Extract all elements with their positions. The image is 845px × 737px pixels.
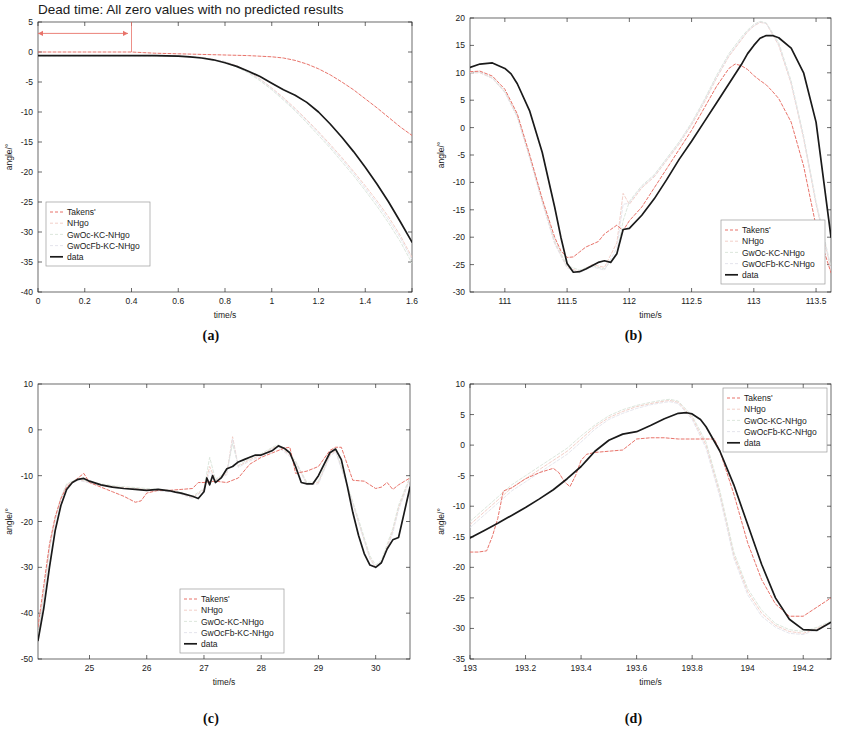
legend-label: GwOcFb-KC-NHgo — [67, 241, 140, 251]
x-tick-label: 112 — [623, 296, 637, 306]
legend-label: Takens' — [742, 225, 771, 235]
x-tick-label: 194 — [741, 663, 755, 673]
legend-label: Takens' — [67, 207, 96, 217]
x-tick-label: 193.6 — [626, 663, 648, 673]
x-tick-label: 194.2 — [793, 663, 815, 673]
chart-svg-a: Dead time: All zero values with no predi… — [0, 0, 422, 362]
y-tick-label: -30 — [21, 562, 34, 572]
x-tick-label: 25 — [85, 663, 95, 673]
y-tick-label: 0 — [460, 440, 465, 450]
x-tick-label: 111.5 — [557, 296, 577, 306]
y-tick-label: 10 — [24, 379, 34, 389]
legend-label: GwOc-KC-NHgo — [742, 248, 805, 258]
y-tick-label: -5 — [25, 77, 33, 87]
legend-label: GwOc-KC-NHgo — [67, 230, 130, 240]
x-tick-label: 111 — [498, 296, 511, 306]
x-tick-label: 0.6 — [172, 296, 184, 306]
legend-label: GwOcFb-KC-NHgo — [201, 628, 274, 638]
y-axis-label: angle/° — [4, 508, 14, 535]
y-tick-label: -5 — [457, 150, 465, 160]
legend-label: Takens' — [744, 393, 773, 403]
x-tick-label: 27 — [199, 663, 209, 673]
legend: Takens'NHgoGwOc-KC-NHgoGwOcFb-KC-NHgodat… — [180, 589, 284, 653]
x-tick-label: 0.2 — [79, 296, 91, 306]
x-tick-label: 193.2 — [515, 663, 537, 673]
y-tick-label: 20 — [456, 13, 466, 23]
y-tick-label: -10 — [453, 501, 466, 511]
panel-caption-d: (d) — [422, 711, 845, 727]
y-tick-label: -10 — [21, 471, 34, 481]
x-tick-label: 112.5 — [681, 296, 702, 306]
y-tick-label: -25 — [453, 260, 466, 270]
x-tick-label: 0.4 — [126, 296, 138, 306]
x-axis-label: time/s — [639, 677, 662, 687]
x-tick-label: 1.4 — [359, 296, 371, 306]
y-tick-label: 10 — [456, 379, 466, 389]
legend-label: NHgo — [201, 605, 223, 615]
chart-title: Dead time: All zero values with no predi… — [38, 2, 344, 17]
x-tick-label: 0.8 — [219, 296, 231, 306]
legend-label: NHgo — [67, 218, 89, 228]
y-tick-label: -40 — [21, 608, 34, 618]
y-tick-label: 0 — [28, 47, 33, 57]
legend-label: GwOcFb-KC-NHgo — [742, 259, 815, 269]
x-tick-label: 30 — [371, 663, 381, 673]
chart-svg-c: 252627282930100-10-20-30-40-50time/sangl… — [0, 362, 422, 737]
x-tick-label: 1.6 — [406, 296, 418, 306]
y-tick-label: 10 — [456, 68, 466, 78]
y-tick-label: -20 — [453, 562, 466, 572]
y-tick-label: -35 — [21, 257, 34, 267]
legend: Takens'NHgoGwOc-KC-NHgoGwOcFb-KC-NHgodat… — [721, 220, 825, 284]
y-tick-label: -15 — [453, 532, 466, 542]
figure-grid: Dead time: All zero values with no predi… — [0, 0, 845, 737]
x-tick-label: 193 — [463, 663, 477, 673]
x-tick-label: 1 — [269, 296, 274, 306]
chart-svg-b: 111111.5112112.5113113.520151050-5-10-15… — [422, 0, 845, 362]
y-axis-label: angle/° — [4, 144, 14, 171]
legend-label: NHgo — [742, 236, 764, 246]
legend-label: GwOc-KC-NHgo — [201, 617, 264, 627]
legend-label: data — [742, 270, 759, 280]
x-tick-label: 113.5 — [806, 296, 827, 306]
x-tick-label: 193.8 — [682, 663, 704, 673]
panel-d: 193193.2193.4193.6193.8194194.21050-5-10… — [422, 362, 845, 737]
legend-label: data — [744, 438, 761, 448]
y-tick-label: -10 — [453, 177, 466, 187]
y-tick-label: -20 — [21, 517, 34, 527]
series-line-takens- — [38, 52, 412, 135]
legend-label: Takens' — [201, 594, 230, 604]
panel-caption-b: (b) — [422, 328, 845, 344]
x-tick-label: 29 — [314, 663, 324, 673]
y-tick-label: -35 — [453, 654, 466, 664]
panel-b: 111111.5112112.5113113.520151050-5-10-15… — [422, 0, 845, 362]
y-tick-label: -10 — [21, 107, 34, 117]
x-axis-label: time/s — [214, 310, 237, 320]
y-tick-label: -40 — [21, 287, 34, 297]
y-tick-label: -15 — [453, 205, 466, 215]
y-tick-label: -15 — [21, 137, 34, 147]
y-tick-label: -30 — [453, 623, 466, 633]
x-axis-label: time/s — [213, 677, 236, 687]
y-axis-label: angle/° — [436, 508, 446, 535]
y-tick-label: 5 — [460, 95, 465, 105]
y-tick-label: -5 — [457, 471, 465, 481]
chart-c: 252627282930100-10-20-30-40-50time/sangl… — [0, 362, 422, 737]
y-tick-label: 0 — [28, 425, 33, 435]
x-tick-label: 26 — [142, 663, 152, 673]
chart-svg-d: 193193.2193.4193.6193.8194194.21050-5-10… — [422, 362, 845, 737]
y-tick-label: 0 — [460, 123, 465, 133]
y-tick-label: -30 — [453, 287, 466, 297]
x-tick-label: 0 — [36, 296, 41, 306]
series-line-takens- — [470, 438, 831, 616]
legend: Takens'NHgoGwOc-KC-NHgoGwOcFb-KC-NHgodat… — [723, 388, 827, 452]
chart-a: Dead time: All zero values with no predi… — [0, 0, 422, 366]
y-axis-label: angle/° — [436, 142, 446, 169]
x-tick-label: 193.4 — [570, 663, 592, 673]
y-tick-label: -25 — [21, 197, 34, 207]
panel-c: 252627282930100-10-20-30-40-50time/sangl… — [0, 362, 422, 737]
legend-label: GwOcFb-KC-NHgo — [744, 427, 817, 437]
panel-caption-c: (c) — [0, 711, 422, 727]
x-tick-label: 28 — [256, 663, 266, 673]
y-tick-label: -20 — [21, 167, 34, 177]
y-tick-label: -25 — [453, 593, 466, 603]
